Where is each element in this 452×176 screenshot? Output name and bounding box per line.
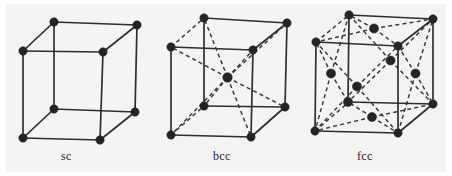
- atom-corner: [50, 105, 58, 113]
- bond-center-to-corner: [171, 47, 228, 78]
- atom-face-center-left: [326, 69, 335, 78]
- atom-face-center-bottom: [367, 112, 376, 121]
- caption-bcc: bcc: [213, 149, 231, 164]
- bond-face-to-corner: [315, 74, 331, 132]
- caption-fcc: fcc: [357, 149, 373, 164]
- atom-corner: [133, 21, 141, 29]
- bond-center-to-corner: [228, 78, 286, 108]
- unit-cell-bcc: [167, 14, 291, 141]
- atom-face-center-top: [369, 24, 378, 33]
- atom-corner: [131, 108, 139, 116]
- sc-connecting-edges: [23, 22, 137, 140]
- atom-corner: [311, 127, 319, 135]
- bond-face-to-corner: [316, 42, 357, 87]
- atom-corner: [429, 100, 437, 108]
- bcc-hidden-edges: [171, 18, 204, 135]
- bond-face-to-corner: [357, 87, 398, 134]
- atom-face-center-right: [411, 69, 420, 78]
- bond-face-to-corner: [348, 61, 391, 103]
- atom-corner: [394, 129, 402, 137]
- atom-corner: [283, 19, 291, 27]
- unit-cell-sc: [19, 18, 141, 144]
- atom-corner: [249, 46, 257, 54]
- atom-corner: [429, 15, 437, 23]
- atom-corner: [99, 48, 107, 56]
- bond-center-to-corner: [204, 78, 228, 107]
- bond-face-to-corner: [357, 46, 398, 87]
- bond-face-to-corner: [416, 19, 434, 74]
- fcc-face-center-atoms: [326, 24, 420, 122]
- atom-corner: [167, 131, 175, 139]
- atom-corner: [96, 136, 104, 144]
- bcc-connecting-edges: [251, 23, 287, 137]
- atom-corner: [19, 47, 27, 55]
- atom-corner: [200, 14, 208, 22]
- atom-corner: [19, 134, 27, 142]
- atom-corner: [394, 42, 402, 50]
- unit-cell-fcc: [311, 11, 437, 137]
- atom-corner: [312, 38, 320, 46]
- bond-face-to-corner: [374, 19, 433, 29]
- bond-face-to-corner: [349, 15, 391, 61]
- atom-body-center: [223, 73, 233, 83]
- atom-corner: [167, 43, 175, 51]
- atom-corner: [200, 102, 208, 110]
- atom-corner: [345, 11, 353, 19]
- caption-sc: sc: [61, 149, 72, 164]
- bond-center-to-corner: [228, 50, 254, 78]
- bond-face-to-corner: [316, 42, 331, 74]
- crystal-lattice-figure: sc bcc fcc: [0, 0, 452, 176]
- atom-corner: [343, 97, 352, 106]
- atom-face-center-front: [352, 82, 361, 91]
- atom-corner: [281, 103, 289, 111]
- atom-corner: [247, 133, 255, 141]
- atom-corner: [50, 18, 58, 26]
- atom-face-center-back: [386, 56, 395, 65]
- bcc-back-face-edges: [204, 18, 287, 107]
